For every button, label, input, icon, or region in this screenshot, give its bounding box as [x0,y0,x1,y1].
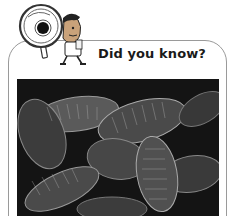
mascot-magnifying-glass-icon [14,2,94,68]
woodlice-photo [17,79,219,216]
card-title: Did you know? [96,46,208,61]
